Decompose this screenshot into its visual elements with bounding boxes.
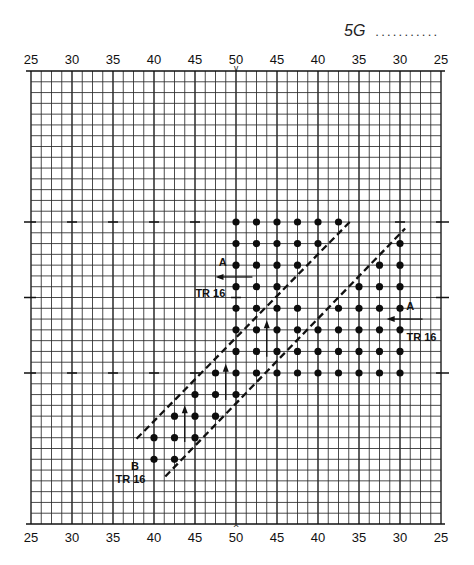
bottom-axis-tick-label: 25 [24,530,38,545]
data-point-dot [253,240,260,247]
data-point-dot [376,348,383,355]
bottom-axis-tick-label: 40 [311,530,325,545]
data-point-dot [273,240,280,247]
data-point-dot [396,305,403,312]
data-point-dot [273,283,280,290]
top-axis-tick-label: 25 [24,52,38,67]
data-point-dot [232,305,239,312]
data-point-dot [376,369,383,376]
data-point-dot [253,262,260,269]
data-point-dot [294,369,301,376]
bottom-axis-tick-label: 45 [188,530,202,545]
top-axis-tick-label: 35 [352,52,366,67]
top-axis-tick-label: 30 [393,52,407,67]
data-point-dot [232,262,239,269]
data-point-dot [232,218,239,225]
data-point-dot [253,348,260,355]
section-a-right-arrow-icon [387,316,423,322]
up-arrow-icon [182,405,188,442]
top-axis-tick-label: 45 [270,52,284,67]
data-point-dot [396,240,403,247]
data-point-dot [232,391,239,398]
data-point-dot [376,326,383,333]
data-point-dot [212,413,219,420]
section-label: TR 16 [195,287,225,299]
data-point-dot [294,326,301,333]
data-point-dot [253,326,260,333]
section-a-left-arrow-icon [216,274,253,280]
data-point-dot [232,369,239,376]
data-point-dot [191,413,198,420]
bottom-axis-tick-label: 25 [434,530,448,545]
data-point-dot [273,348,280,355]
data-point-dot [314,326,321,333]
top-axis-tick-label: 40 [147,52,161,67]
bottom-axis-tick-label: 45 [270,530,284,545]
section-label: A [219,256,227,268]
bottom-axis: 2530354045504540353025^ [24,524,448,545]
data-point-dot [294,240,301,247]
data-point-dot [232,326,239,333]
data-point-dot [171,434,178,441]
data-point-dot [232,348,239,355]
data-point-dot [150,434,157,441]
data-point-dot [171,456,178,463]
data-point-dot [396,283,403,290]
section-label: TR 16 [407,331,437,343]
data-point-dot [376,283,383,290]
grid-chart: 2530354045504540353025v 2530354045504540… [0,0,474,565]
data-point-dot [253,283,260,290]
data-point-dot [273,369,280,376]
section-label: TR 16 [115,473,145,485]
top-axis: 2530354045504540353025v [24,52,448,73]
data-point-dot [335,305,342,312]
data-point-dot [376,305,383,312]
top-axis-tick-label: 30 [65,52,79,67]
top-axis-tick-label: 40 [311,52,325,67]
data-point-dot [253,305,260,312]
bottom-axis-tick-label: 30 [393,530,407,545]
data-point-dot [294,305,301,312]
data-point-dot [335,348,342,355]
top-axis-tick-label: 35 [106,52,120,67]
data-point-dot [335,218,342,225]
data-point-dot [396,326,403,333]
data-point-dot [314,348,321,355]
data-point-dot [294,348,301,355]
data-point-dot [294,218,301,225]
center-marker-bottom: ^ [233,524,240,533]
bottom-axis-tick-label: 40 [147,530,161,545]
data-point-dot [273,218,280,225]
data-point-dot [335,326,342,333]
data-point-dot [314,369,321,376]
top-axis-tick-label: 45 [188,52,202,67]
data-point-dot [355,369,362,376]
data-point-dot [355,326,362,333]
data-point-dot [355,283,362,290]
data-point-dot [212,391,219,398]
section-label: A [406,300,414,312]
top-axis-tick-label: 25 [434,52,448,67]
data-point-dot [232,283,239,290]
data-point-dot [314,240,321,247]
data-point-dot [376,262,383,269]
data-point-dot [396,348,403,355]
bottom-axis-tick-label: 35 [352,530,366,545]
data-point-dot [314,218,321,225]
data-point-dot [191,434,198,441]
data-point-dot [212,369,219,376]
data-point-dot [171,413,178,420]
data-point-dot [294,262,301,269]
data-point-dot [273,262,280,269]
data-point-dot [355,348,362,355]
data-point-dot [150,456,157,463]
center-marker-top: v [234,64,239,73]
data-point-dot [232,240,239,247]
data-point-dot [396,262,403,269]
data-point-dot [253,369,260,376]
data-point-dot [191,391,198,398]
section-label: B [131,460,139,472]
data-point-dot [273,305,280,312]
data-point-dot [335,369,342,376]
data-point-dot [396,369,403,376]
